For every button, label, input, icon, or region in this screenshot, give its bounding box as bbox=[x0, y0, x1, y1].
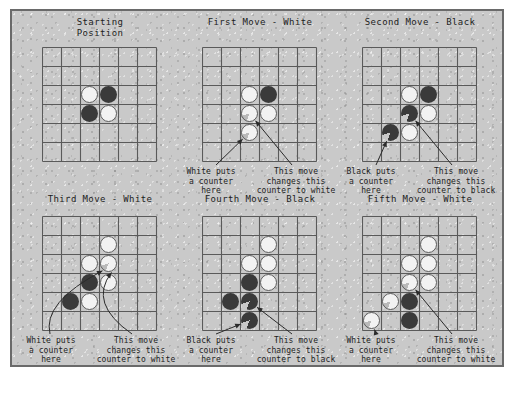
othello-board[interactable] bbox=[202, 47, 316, 161]
caption-place-counter: Black puts a counter here bbox=[174, 336, 248, 365]
caption-place-counter: White puts a counter here bbox=[14, 336, 88, 365]
othello-board[interactable] bbox=[362, 216, 476, 330]
counter-black[interactable] bbox=[401, 312, 418, 329]
othello-board[interactable] bbox=[42, 216, 156, 330]
counter-white-marked[interactable] bbox=[241, 124, 258, 141]
counter-white[interactable] bbox=[420, 105, 437, 122]
othello-board[interactable] bbox=[362, 47, 476, 161]
panel-title: Second Move - Black bbox=[340, 17, 500, 28]
counter-white-marked[interactable] bbox=[241, 105, 258, 122]
counter-white[interactable] bbox=[241, 255, 258, 272]
panel-title: Fifth Move - White bbox=[340, 194, 500, 205]
panel-third-move-white: Third Move - White White puts a counter … bbox=[20, 194, 180, 367]
othello-board[interactable] bbox=[202, 216, 316, 330]
caption-flip-counter: This move changes this counter to white bbox=[246, 167, 346, 196]
panel-second-move-black: Second Move - Black Black puts a counter… bbox=[340, 17, 500, 192]
panel-title: First Move - White bbox=[180, 17, 340, 28]
counter-white[interactable] bbox=[260, 255, 277, 272]
othello-board[interactable] bbox=[42, 47, 156, 161]
counter-white[interactable] bbox=[81, 293, 98, 310]
counter-black-marked[interactable] bbox=[241, 293, 258, 310]
counter-white[interactable] bbox=[241, 86, 258, 103]
caption-flip-counter: This move changes this counter to black bbox=[406, 167, 504, 196]
panel-fourth-move-black: Fourth Move - Black Black puts a counter… bbox=[180, 194, 340, 367]
counter-white-marked[interactable] bbox=[363, 312, 380, 329]
caption-place-counter: White puts a counter here bbox=[174, 167, 248, 196]
counter-black[interactable] bbox=[260, 86, 277, 103]
counter-black-marked[interactable] bbox=[241, 312, 258, 329]
counter-white[interactable] bbox=[420, 236, 437, 253]
panel-first-move-white: First Move - White White puts a counter … bbox=[180, 17, 340, 192]
figure-frame: Starting Position First Move - White Whi… bbox=[10, 9, 504, 367]
counter-white[interactable] bbox=[260, 274, 277, 291]
counter-white[interactable] bbox=[100, 105, 117, 122]
counter-white-marked[interactable] bbox=[401, 274, 418, 291]
counter-white[interactable] bbox=[100, 274, 117, 291]
counter-black[interactable] bbox=[222, 293, 239, 310]
panel-title: Third Move - White bbox=[20, 194, 180, 205]
caption-place-counter: Black puts a counter here bbox=[334, 167, 408, 196]
counter-white[interactable] bbox=[420, 255, 437, 272]
counter-black[interactable] bbox=[62, 293, 79, 310]
caption-flip-counter: This move changes this counter to black bbox=[246, 336, 346, 365]
counter-black[interactable] bbox=[100, 86, 117, 103]
caption-place-counter: White puts a counter here bbox=[334, 336, 408, 365]
counter-black[interactable] bbox=[81, 105, 98, 122]
counter-white[interactable] bbox=[420, 274, 437, 291]
counter-white[interactable] bbox=[81, 255, 98, 272]
counter-white[interactable] bbox=[401, 255, 418, 272]
counter-black[interactable] bbox=[401, 293, 418, 310]
counter-white[interactable] bbox=[401, 124, 418, 141]
panel-title: Fourth Move - Black bbox=[180, 194, 340, 205]
counter-black-marked[interactable] bbox=[401, 105, 418, 122]
panel-fifth-move-white: Fifth Move - White White puts a counter … bbox=[340, 194, 500, 367]
counter-white[interactable] bbox=[401, 86, 418, 103]
panel-title: Starting Position bbox=[20, 17, 180, 39]
panel-starting-position: Starting Position bbox=[20, 17, 180, 192]
counter-black[interactable] bbox=[81, 274, 98, 291]
caption-flip-counter: This move changes this counter to white bbox=[86, 336, 186, 365]
counter-black[interactable] bbox=[420, 86, 437, 103]
counter-white[interactable] bbox=[260, 105, 277, 122]
counter-white-marked[interactable] bbox=[100, 255, 117, 272]
counter-white-marked[interactable] bbox=[382, 293, 399, 310]
counter-black[interactable] bbox=[241, 274, 258, 291]
counter-white[interactable] bbox=[81, 86, 98, 103]
counter-white[interactable] bbox=[260, 236, 277, 253]
counter-white[interactable] bbox=[100, 236, 117, 253]
caption-flip-counter: This move changes this counter to white bbox=[406, 336, 504, 365]
counter-black-marked[interactable] bbox=[382, 124, 399, 141]
